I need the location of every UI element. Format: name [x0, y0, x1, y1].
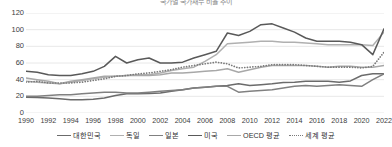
legend-swatch-icon — [289, 135, 303, 136]
x-axis-tick-label: 2000 — [130, 115, 146, 126]
x-axis-tick-label: 1996 — [85, 115, 101, 126]
legend-swatch-icon — [149, 135, 163, 136]
x-axis-tick-label: 2012 — [264, 115, 280, 126]
legend-item-label: 독일 — [126, 132, 140, 139]
legend-item[interactable]: 대한민국 — [57, 132, 101, 139]
legend-item-label: OECD 평균 — [243, 132, 280, 139]
series-line-일본 — [26, 74, 384, 97]
legend-item-label: 미국 — [204, 132, 218, 139]
x-axis-tick-label: 2006 — [197, 115, 213, 126]
x-axis-tick-label: 2002 — [152, 115, 168, 126]
x-axis-tick-label: 2020 — [354, 115, 370, 126]
chart-legend: 대한민국독일일본미국OECD 평균세계 평균 — [0, 129, 392, 143]
series-line-세계-평균 — [26, 52, 384, 83]
x-axis-tick-label: 2016 — [309, 115, 325, 126]
legend-item[interactable]: 일본 — [149, 132, 179, 139]
x-axis-tick-label: 1992 — [40, 115, 56, 126]
legend-swatch-icon — [110, 135, 124, 136]
series-line-독일 — [26, 32, 384, 84]
chart-container: 국가별 국가채무 비율 추이 020406080100120 199019921… — [0, 0, 392, 147]
legend-swatch-icon — [57, 135, 71, 136]
x-axis-tick-label: 2022 — [376, 115, 392, 126]
legend-item[interactable]: 세계 평균 — [289, 132, 335, 139]
y-axis-tick-label: 80 — [0, 43, 24, 51]
y-axis-tick-label: 100 — [0, 26, 24, 34]
x-axis-tick-label: 1998 — [108, 115, 124, 126]
legend-item-label: 대한민국 — [73, 132, 101, 139]
legend-item-label: 세계 평균 — [305, 132, 335, 139]
legend-swatch-icon — [227, 135, 241, 136]
legend-item[interactable]: OECD 평균 — [227, 132, 280, 139]
y-axis-tick-label: 40 — [0, 76, 24, 84]
x-axis-tick-label: 2008 — [219, 115, 235, 126]
x-axis: 1990199219941996199820002002200420062008… — [26, 115, 384, 126]
y-axis-tick-label: 20 — [0, 93, 24, 101]
x-axis-tick-label: 2014 — [287, 115, 303, 126]
x-axis-tick-label: 2018 — [331, 115, 347, 126]
x-axis-tick-label: 1994 — [63, 115, 79, 126]
y-axis-tick-label: 60 — [0, 59, 24, 67]
legend-item[interactable]: 미국 — [188, 132, 218, 139]
x-axis-tick-label: 2010 — [242, 115, 258, 126]
y-axis: 020406080100120 — [0, 13, 24, 113]
line-chart-svg — [26, 13, 384, 113]
plot-area — [26, 13, 384, 113]
chart-title: 국가별 국가채무 비율 추이 — [0, 0, 392, 6]
x-axis-tick-label: 2004 — [175, 115, 191, 126]
legend-item[interactable]: 독일 — [110, 132, 140, 139]
legend-item-label: 일본 — [165, 132, 179, 139]
x-axis-tick-label: 1990 — [18, 115, 34, 126]
y-axis-tick-label: 120 — [0, 9, 24, 17]
legend-swatch-icon — [188, 135, 202, 136]
